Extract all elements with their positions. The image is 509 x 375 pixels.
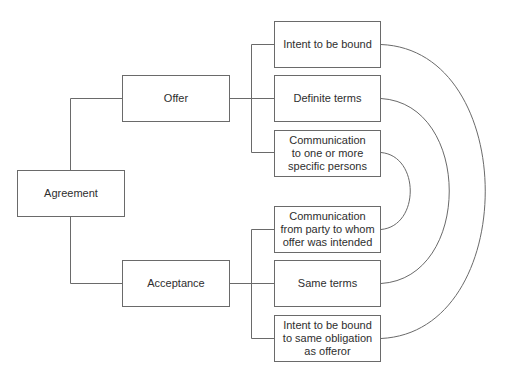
offer-element-communication-box: Communication to one or more specific pe… (274, 130, 381, 177)
arc-intent (381, 45, 485, 339)
agreement-label: Agreement (44, 187, 98, 200)
agreement-diagram: Agreement Offer Acceptance Intent to be … (0, 0, 509, 375)
offer-element-label: Communication to one or more specific pe… (288, 134, 367, 173)
offer-label: Offer (164, 92, 188, 105)
acceptance-element-label: Intent to be bound to same obligation as… (283, 319, 372, 358)
connector-acceptance-elements (230, 230, 274, 339)
offer-box: Offer (122, 75, 230, 122)
arc-communication (381, 153, 410, 230)
acceptance-box: Acceptance (122, 260, 230, 307)
acceptance-element-communication-box: Communication from party to whom offer w… (274, 206, 381, 253)
connector-offer-elements (230, 45, 274, 153)
acceptance-element-terms-box: Same terms (274, 260, 381, 307)
acceptance-element-label: Same terms (298, 277, 357, 290)
agreement-box: Agreement (17, 170, 125, 217)
acceptance-element-intent-box: Intent to be bound to same obligation as… (274, 315, 381, 362)
offer-element-intent-box: Intent to be bound (274, 21, 381, 68)
offer-element-terms-box: Definite terms (274, 75, 381, 122)
connector-agreement-offer (71, 99, 123, 171)
offer-element-label: Definite terms (294, 92, 362, 105)
arc-terms (381, 99, 449, 284)
offer-element-label: Intent to be bound (283, 38, 372, 51)
acceptance-element-label: Communication from party to whom offer w… (280, 210, 374, 249)
connector-agreement-acceptance (71, 216, 123, 284)
acceptance-label: Acceptance (147, 277, 204, 290)
